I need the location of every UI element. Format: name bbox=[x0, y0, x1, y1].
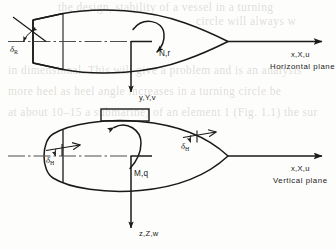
stern-upper-taper-plan bbox=[33, 14, 63, 21]
pitch-moment-label: M,q bbox=[134, 170, 148, 178]
rudder-angle-arc bbox=[24, 31, 33, 42]
submarine-axes-diagram bbox=[0, 0, 336, 250]
pitch-moment-arrow bbox=[114, 125, 141, 168]
horizontal-plane-label: Horizontal plane bbox=[270, 63, 335, 71]
figure-canvas: the design, stability of a vessel in a t… bbox=[0, 0, 336, 250]
yaw-moment-arrow bbox=[133, 21, 164, 52]
bow-hydroplane-angle-arc bbox=[55, 149, 56, 157]
z-axis-label-side: z,Z,w bbox=[139, 230, 159, 238]
rudder-deflection-line bbox=[13, 17, 46, 42]
y-axis-label-plan: y,Y,v bbox=[139, 94, 156, 102]
x-axis-label-side: x,X,u bbox=[291, 165, 310, 173]
conning-tower bbox=[101, 109, 149, 121]
yaw-moment-label: N,r bbox=[159, 50, 171, 58]
stern-lower-taper-plan bbox=[33, 63, 63, 70]
stern-hydroplane-angle-arc bbox=[190, 135, 191, 143]
rudder-angle-label: δR bbox=[10, 45, 18, 55]
vertical-plane-group bbox=[8, 109, 322, 228]
vertical-plane-label: Vertical plane bbox=[273, 177, 328, 185]
x-axis-label-plan: x,X,u bbox=[291, 51, 310, 59]
stern-hydroplane-label: δH bbox=[181, 142, 189, 152]
bow-hydroplane-label: δH bbox=[46, 156, 54, 166]
